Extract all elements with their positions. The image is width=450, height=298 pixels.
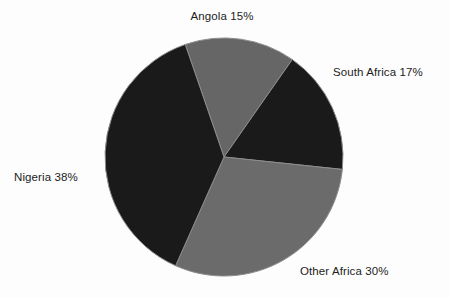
pie-chart: Angola 15% South Africa 17% Nigeria 38% … (0, 0, 450, 298)
pie-label-angola: Angola 15% (190, 9, 253, 23)
pie-label-nigeria: Nigeria 38% (14, 170, 78, 184)
pie-slices (105, 38, 343, 276)
pie-label-other-africa: Other Africa 30% (300, 264, 389, 278)
pie-chart-canvas (0, 0, 450, 298)
pie-label-south-africa: South Africa 17% (333, 65, 423, 79)
